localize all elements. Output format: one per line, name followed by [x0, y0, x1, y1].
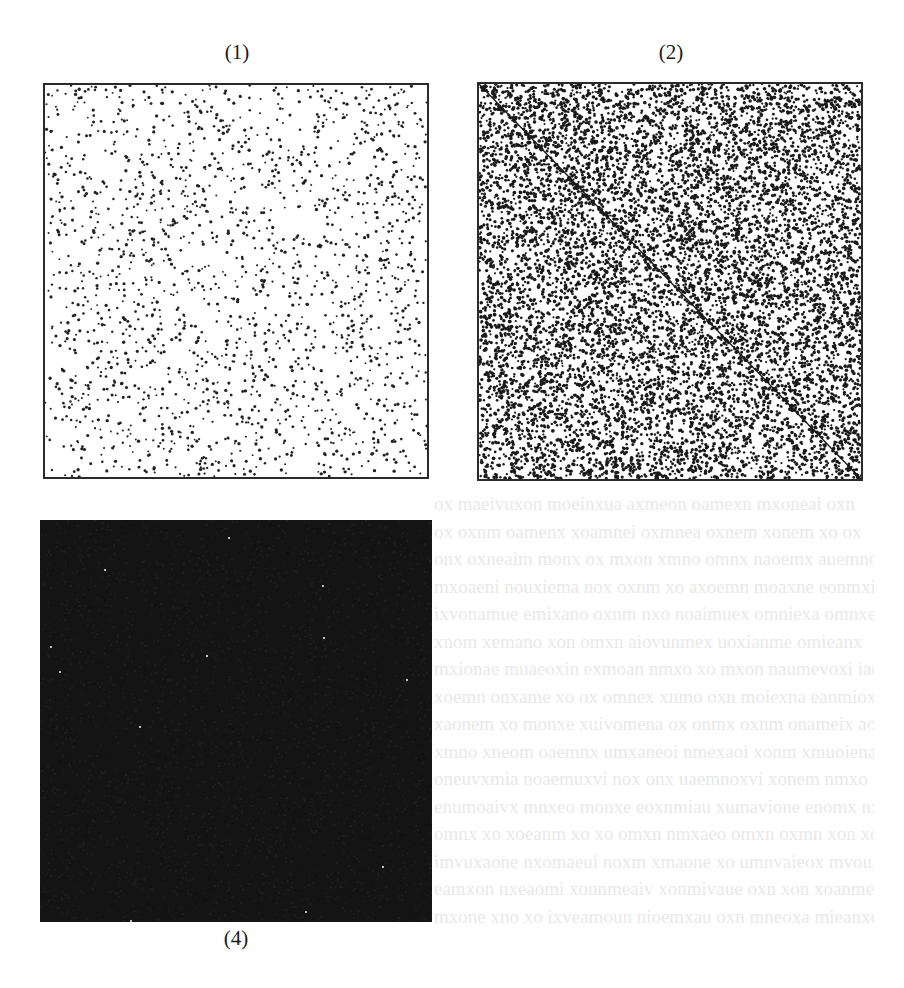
bleed-through-line: mxoaeni nouxiema nox oxnm xo axoemn moax…: [434, 573, 874, 601]
bleed-through-line: enumoaivx mnxeo monxe eoxnmiau xumavione…: [434, 793, 874, 821]
bleed-through-line: imvuxaone nxomaeui noxm xmaone xo umnvai…: [434, 848, 874, 876]
bleed-through-line: oneuvxmia noaemuxvi nox onx uaemnoxvi xo…: [434, 765, 874, 793]
panel-1-label: (1): [197, 40, 277, 65]
bleed-through-text: ox maeivuxon moeinxua axmeon oamexn mxon…: [434, 490, 874, 930]
panel-1-sparse-dot-plot: [43, 83, 429, 479]
bleed-through-line: onx oxneaim monx ox mxon xmno omnx naoem…: [434, 545, 874, 573]
bleed-through-line: xnom xemano xon omxn aiovunmex uoxianme …: [434, 628, 874, 656]
bleed-through-line: xaonem xo monxe xuivomena ox onmx oxnm o…: [434, 710, 874, 738]
bleed-through-line: xmno xneom oaemnx umxaneoi nmexaoi xonm …: [434, 738, 874, 766]
panel-1-canvas: [45, 85, 427, 477]
bleed-through-line: eamxon nxeaomi xounmeaiv xonmivaue oxn x…: [434, 875, 874, 903]
bleed-through-line: ox maeivuxon moeinxua axmeon oamexn mxon…: [434, 490, 874, 518]
panel-4-label: (4): [196, 926, 276, 951]
panel-2-dense-dot-plot: [477, 82, 863, 481]
bleed-through-line: mxone xno xo ixveamoun nioemxau oxn mneo…: [434, 903, 874, 931]
panel-2-label: (2): [631, 40, 711, 65]
bleed-through-line: omnx xo xoeanm xo xo omxn nmxaeo omxn ox…: [434, 820, 874, 848]
bleed-through-line: ox oxnm oamenx xoamnei oxmnea oxnem xone…: [434, 518, 874, 546]
panel-4-canvas: [40, 520, 432, 922]
bleed-through-line: xoemn onxame xo ox omnex xnmo oxn moiexn…: [434, 683, 874, 711]
panel-2-canvas: [479, 84, 861, 479]
bleed-through-line: mxionae muaeoxin exmoan nmxo xo mxon nau…: [434, 655, 874, 683]
panel-4-dark-plot: [40, 520, 432, 922]
bleed-through-line: ixvonamue emixano oxnm nxo noaimuex omni…: [434, 600, 874, 628]
